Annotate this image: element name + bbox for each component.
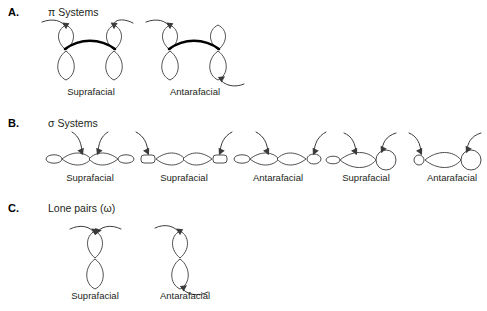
- lonepair-suprafacial-caption: Suprafacial: [46, 290, 144, 301]
- lonepair-suprafacial-figure: [52, 222, 138, 292]
- sigma-suprafacial-figure-2: [136, 132, 232, 172]
- sigma-suprafacial-figure-4: [322, 132, 410, 172]
- sigma-caption-5: Antarafacial: [404, 172, 487, 183]
- section-c-title: Lone pairs (ω): [48, 202, 115, 214]
- sigma-antarafacial-figure-3: [230, 132, 326, 172]
- section-b-letter: B.: [8, 117, 19, 129]
- sigma-caption-1: Suprafacial: [42, 172, 138, 183]
- section-b-title: σ Systems: [48, 117, 98, 129]
- sigma-caption-3: Antarafacial: [230, 172, 326, 183]
- lonepair-antarafacial-figure: [140, 222, 230, 292]
- pi-suprafacial-caption: Suprafacial: [36, 86, 146, 97]
- lonepair-antarafacial-caption: Antarafacial: [134, 290, 236, 301]
- pi-antarafacial-figure: [140, 18, 250, 84]
- sigma-antarafacial-figure-5: [408, 132, 487, 172]
- section-a-letter: A.: [8, 6, 19, 18]
- sigma-caption-4: Suprafacial: [318, 172, 414, 183]
- section-c-letter: C.: [8, 202, 19, 214]
- sigma-caption-2: Suprafacial: [136, 172, 232, 183]
- section-a-title: π Systems: [48, 6, 98, 18]
- pi-antarafacial-caption: Antarafacial: [140, 86, 250, 97]
- sigma-suprafacial-figure-1: [42, 132, 138, 172]
- pi-suprafacial-figure: [36, 18, 146, 84]
